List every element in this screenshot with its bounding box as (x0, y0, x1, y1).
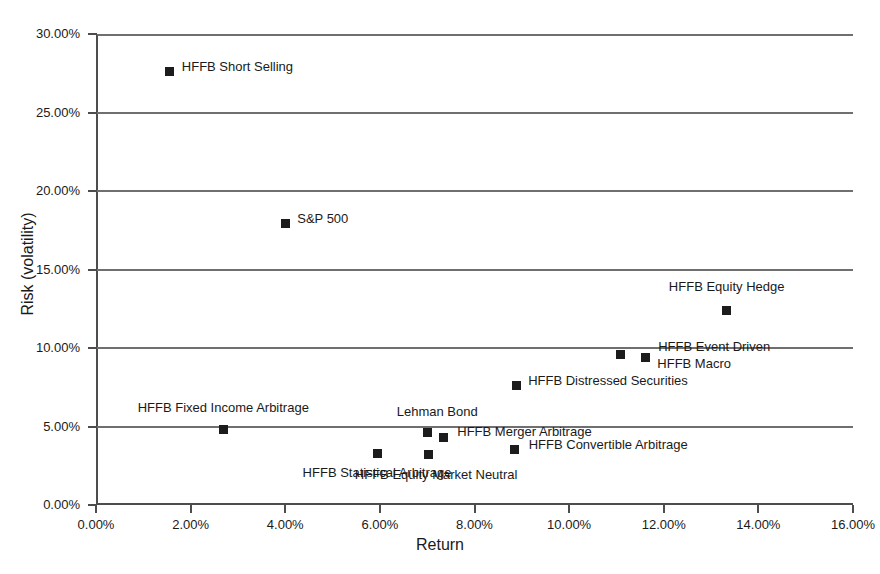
data-point-marker (641, 353, 650, 362)
data-point-marker (512, 381, 521, 390)
x-axis-tick (190, 505, 192, 513)
data-point-marker (423, 428, 432, 437)
data-point-marker (439, 433, 448, 442)
scatter-chart: 0.00%5.00%10.00%15.00%20.00%25.00%30.00%… (0, 0, 880, 574)
data-point-label: HFFB Macro (657, 357, 731, 371)
y-axis-tick (88, 112, 97, 114)
x-axis-tick (95, 505, 97, 513)
data-point-label: HFFB Convertible Arbitrage (529, 438, 688, 452)
x-axis-tick-label: 10.00% (519, 518, 619, 531)
x-axis-tick (284, 505, 286, 513)
data-point-label: Lehman Bond (397, 405, 478, 419)
x-axis-tick-label: 4.00% (235, 518, 335, 531)
y-axis-tick (88, 33, 97, 35)
y-axis-tick (88, 347, 97, 349)
data-point-marker (722, 306, 731, 315)
x-axis-tick (663, 505, 665, 513)
y-axis-tick-label: 15.00% (2, 263, 80, 276)
y-axis-tick-label: 5.00% (2, 420, 80, 433)
x-axis-tick-label: 6.00% (330, 518, 430, 531)
x-axis-tick-label: 8.00% (425, 518, 525, 531)
data-point-marker (165, 67, 174, 76)
y-axis-tick-label: 30.00% (2, 27, 80, 40)
data-point-marker (281, 219, 290, 228)
x-axis-tick (568, 505, 570, 513)
x-axis-tick-label: 0.00% (46, 518, 146, 531)
x-axis-tick-label: 14.00% (708, 518, 808, 531)
data-point-label: S&P 500 (297, 212, 348, 226)
x-axis-title: Return (0, 536, 880, 554)
y-axis-title: Risk (volatility) (19, 184, 37, 344)
x-axis-tick (757, 505, 759, 513)
data-point-label: HFFB Short Selling (182, 60, 293, 74)
x-axis-tick-label: 16.00% (803, 518, 880, 531)
y-axis-tick-label: 25.00% (2, 106, 80, 119)
x-axis-tick-label: 12.00% (614, 518, 714, 531)
data-point-marker (510, 445, 519, 454)
data-point-marker (373, 449, 382, 458)
y-axis-tick-label: 20.00% (2, 184, 80, 197)
y-axis-tick (88, 426, 97, 428)
x-axis-tick-label: 2.00% (141, 518, 241, 531)
x-axis-tick (474, 505, 476, 513)
data-point-marker (424, 450, 433, 459)
data-point-label: HFFB Distressed Securities (528, 374, 688, 388)
gridline (96, 112, 853, 114)
data-point-marker (616, 350, 625, 359)
x-axis-tick (379, 505, 381, 513)
x-axis-tick (852, 505, 854, 513)
data-point-marker (219, 425, 228, 434)
y-axis-tick (88, 190, 97, 192)
gridline (96, 269, 853, 271)
y-axis-tick-label: 0.00% (2, 498, 80, 511)
data-point-label: HFFB Statistical Arbitrage (303, 466, 452, 480)
data-point-label: HFFB Fixed Income Arbitrage (138, 401, 309, 415)
gridline (96, 190, 853, 192)
y-axis-tick (88, 269, 97, 271)
data-point-label: HFFB Equity Hedge (669, 280, 785, 294)
data-point-label: HFFB Event Driven (658, 340, 770, 354)
y-axis-tick-label: 10.00% (2, 341, 80, 354)
